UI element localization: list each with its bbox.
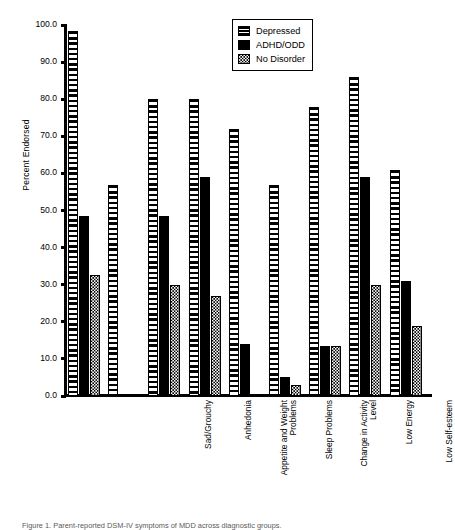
legend-item: ADHD/ODD [238,38,305,52]
bar [360,177,370,396]
bar [170,285,180,396]
bar [200,177,210,396]
legend-swatch-dotted [238,54,250,64]
y-axis-tick-mark [61,24,66,27]
legend-item-label: Depressed [256,26,300,36]
bar [401,281,411,396]
x-axis-category-label: Sad/Grouchy [204,400,213,520]
bar [309,107,319,396]
x-axis-category-label: Low Self-esteem [445,400,454,520]
y-axis-tick-mark [61,246,66,249]
bar [291,385,301,396]
y-axis-tick-mark [61,209,66,212]
legend-item-label: No Disorder [256,54,305,64]
x-axis-category-label: Anhedonia [244,400,253,520]
bar [189,99,199,396]
y-axis-tick-label: 90.0 [40,56,57,66]
bar [211,296,221,396]
bar [159,216,169,396]
y-axis-tick-label: 30.0 [40,279,57,289]
bar [390,170,400,396]
bar [68,31,78,396]
y-axis-tick-label: 60.0 [40,167,57,177]
x-axis-category-label: Sleep Problems [325,400,334,520]
bar [240,344,250,396]
y-axis-tick-label: 0.0 [45,390,57,400]
y-axis-tick-label: 100.0 [35,19,57,29]
legend-swatch-horizontal-stripes [238,26,250,36]
bar [269,185,279,396]
legend-swatch-solid-black [238,40,250,50]
x-axis-category-label: Change in Activity Level [360,400,379,520]
figure-bar-chart: Percent Endorsed 0.010.020.030.040.050.0… [0,0,455,530]
bar [229,129,239,396]
y-axis-tick-label: 10.0 [40,353,57,363]
chart-legend: DepressedADHD/ODDNo Disorder [232,19,313,71]
y-axis-tick-label: 20.0 [40,316,57,326]
bar [90,275,100,396]
x-axis-category-label: Low Energy [405,400,414,520]
bar [331,346,341,396]
bar [412,326,422,396]
figure-caption: Figure 1. Parent-reported DSM-IV symptom… [22,521,437,530]
y-axis-tick-mark [61,320,66,323]
y-axis-tick-label: 80.0 [40,93,57,103]
bar [349,77,359,396]
y-axis-tick-label: 40.0 [40,242,57,252]
y-axis-tick-label: 50.0 [40,205,57,215]
y-axis-tick-mark [61,172,66,175]
bar [371,285,381,396]
bar [79,216,89,396]
bar [320,346,330,396]
legend-item: No Disorder [238,52,305,66]
legend-item: Depressed [238,24,305,38]
legend-item-label: ADHD/ODD [256,40,305,50]
y-axis-tick-mark [61,61,66,64]
y-axis-tick-mark [61,98,66,101]
y-axis-tick-mark [61,357,66,360]
bar [280,377,290,396]
y-axis-tick-mark [61,135,66,138]
bar [148,99,158,396]
y-axis-title: Percent Endorsed [21,80,31,230]
bar [108,185,118,396]
y-axis-tick-mark [61,283,66,286]
x-axis-category-label: Appetite and Weight Problems [280,400,299,520]
y-axis-tick-mark [61,395,66,398]
y-axis-tick-label: 70.0 [40,130,57,140]
